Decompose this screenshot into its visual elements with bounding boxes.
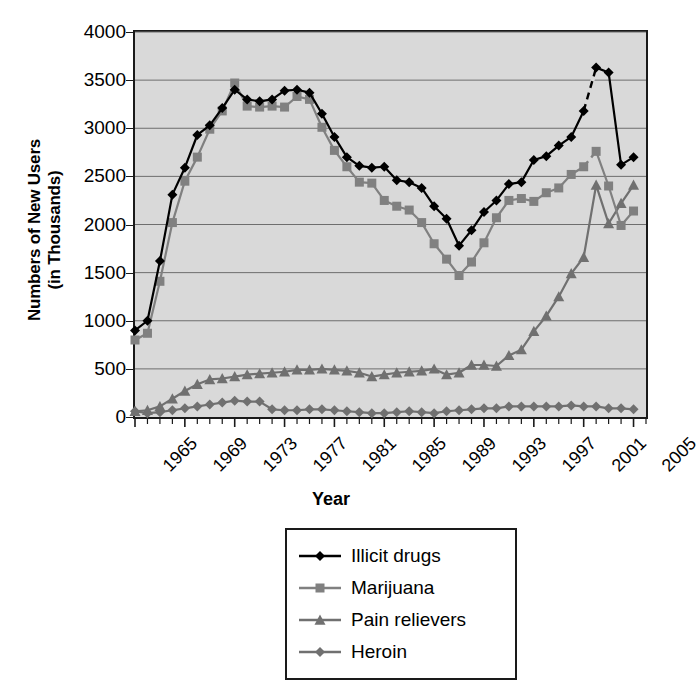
data-point-marker — [317, 123, 326, 132]
data-point-marker — [516, 401, 526, 411]
legend-label: Illicit drugs — [343, 545, 441, 567]
data-point-marker — [167, 393, 178, 403]
data-point-marker — [192, 401, 202, 411]
data-point-marker — [479, 238, 488, 247]
legend-item-illicit-drugs[interactable]: Illicit drugs — [297, 540, 507, 572]
y-axis-tick-mark — [126, 80, 133, 81]
data-point-marker — [504, 196, 513, 205]
y-axis-tick-label: 1000 — [38, 310, 126, 332]
legend-label: Heroin — [343, 641, 407, 663]
data-point-marker — [628, 180, 639, 190]
data-point-marker — [616, 160, 626, 170]
data-point-marker — [380, 196, 389, 205]
data-point-marker — [167, 405, 177, 415]
y-axis-tick-label: 2500 — [38, 165, 126, 187]
data-point-marker — [205, 399, 215, 409]
y-axis-tick-mark — [126, 369, 133, 370]
legend-marker-icon — [297, 578, 343, 598]
data-point-marker — [242, 397, 252, 407]
data-point-marker — [304, 404, 314, 414]
data-point-marker — [255, 397, 265, 407]
data-point-marker — [603, 218, 614, 228]
data-point-marker — [280, 405, 290, 415]
data-point-marker — [554, 183, 563, 192]
data-point-marker — [504, 401, 514, 411]
data-point-marker — [315, 647, 325, 657]
data-point-marker — [592, 147, 601, 156]
series-heroin — [130, 396, 639, 419]
y-axis-tick-mark — [126, 225, 133, 226]
data-point-marker — [217, 398, 227, 408]
data-point-marker — [330, 146, 339, 155]
y-axis-tick-mark — [126, 321, 133, 322]
data-point-marker — [180, 163, 190, 173]
data-point-marker — [267, 404, 277, 414]
data-point-marker — [315, 551, 325, 561]
data-point-marker — [553, 291, 564, 301]
data-point-marker — [280, 103, 289, 112]
data-point-marker — [579, 162, 588, 171]
data-point-marker — [517, 194, 526, 203]
data-point-marker — [442, 406, 452, 416]
x-axis-tick-label: 1977 — [308, 433, 351, 476]
data-point-marker — [629, 152, 639, 162]
data-point-marker — [442, 255, 451, 264]
data-point-marker — [404, 177, 414, 187]
data-point-marker — [492, 213, 501, 222]
data-point-marker — [529, 401, 539, 411]
chart-legend: Illicit drugsMarijuanaPain relieversHero… — [285, 528, 517, 680]
x-axis-tick-label: 1989 — [458, 433, 501, 476]
data-point-marker — [491, 403, 501, 413]
data-point-marker — [454, 405, 464, 415]
data-point-marker — [367, 179, 376, 188]
y-axis-tick-label: 500 — [38, 358, 126, 380]
x-axis-tick-label: 1981 — [358, 433, 401, 476]
data-point-marker — [404, 406, 414, 416]
legend-marker-icon — [297, 642, 343, 662]
data-point-marker — [180, 177, 189, 186]
legend-item-heroin[interactable]: Heroin — [297, 636, 507, 668]
data-point-marker — [367, 163, 377, 173]
data-point-marker — [179, 386, 190, 396]
y-axis-tick-mark — [126, 417, 133, 418]
data-point-marker — [616, 403, 626, 413]
y-axis-tick-mark — [126, 273, 133, 274]
data-point-marker — [566, 400, 576, 410]
legend-marker-icon — [297, 610, 343, 630]
y-axis-tick-mark — [126, 32, 133, 33]
series-pain-relievers — [130, 180, 640, 416]
data-point-marker — [193, 153, 202, 162]
legend-label: Pain relievers — [343, 609, 466, 631]
y-axis-tick-mark — [126, 128, 133, 129]
data-point-marker — [579, 106, 589, 116]
data-point-marker — [516, 177, 526, 187]
data-point-marker — [579, 401, 589, 411]
x-axis-tick-label: 2005 — [657, 433, 700, 476]
data-point-marker — [154, 401, 165, 411]
data-point-marker — [316, 584, 325, 593]
x-axis-tick-label: 1997 — [558, 433, 601, 476]
x-axis-tick-label: 1973 — [258, 433, 301, 476]
data-point-marker — [167, 190, 177, 200]
data-point-marker — [541, 401, 551, 411]
x-axis-tick-label: 1965 — [159, 433, 202, 476]
data-point-marker — [367, 408, 377, 418]
data-point-marker — [392, 202, 401, 211]
legend-marker-icon — [297, 546, 343, 566]
data-point-marker — [392, 407, 402, 417]
data-point-marker — [629, 207, 638, 216]
y-axis-tick-label: 1500 — [38, 262, 126, 284]
x-axis-tick-label: 1993 — [508, 433, 551, 476]
legend-item-marijuana[interactable]: Marijuana — [297, 572, 507, 604]
data-point-marker — [329, 132, 339, 142]
plot-area — [133, 30, 648, 419]
chart-canvas — [135, 32, 646, 431]
data-point-marker — [430, 239, 439, 248]
data-point-marker — [168, 218, 177, 227]
data-point-marker — [529, 197, 538, 206]
x-axis-tick-label: 2001 — [607, 433, 650, 476]
data-point-marker — [455, 271, 464, 280]
legend-item-pain-relievers[interactable]: Pain relievers — [297, 604, 507, 636]
x-axis-tick-label: 1969 — [209, 433, 252, 476]
x-axis-title: Year — [0, 489, 662, 510]
